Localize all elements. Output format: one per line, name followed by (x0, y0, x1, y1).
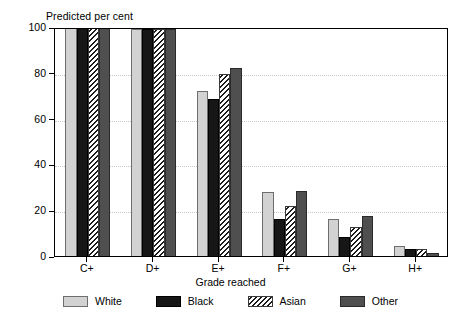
bar-black-cplus (77, 28, 88, 256)
bar-chart: Predicted per cent 020406080100 C+D+E+F+… (0, 0, 461, 328)
bar-groups (55, 29, 447, 256)
legend-item-asian: Asian (248, 295, 306, 307)
bar-asian-cplus (88, 28, 99, 256)
bar-white-dplus (131, 29, 142, 256)
legend-item-white: White (63, 295, 122, 307)
bar-group-hplus (394, 29, 439, 256)
bar-asian-dplus (153, 29, 164, 256)
bar-other-cplus (99, 28, 110, 256)
x-tick-label-eplus: E+ (212, 262, 225, 274)
bar-white-hplus (394, 246, 405, 256)
bar-black-hplus (405, 249, 416, 256)
bar-other-eplus (230, 68, 241, 256)
bar-group-fplus (262, 29, 307, 256)
bar-group-eplus (197, 29, 242, 256)
bar-group-cplus (65, 29, 110, 256)
y-tick-label: 40 (34, 158, 46, 170)
y-axis-title: Predicted per cent (46, 10, 133, 22)
y-tick-label: 100 (28, 21, 46, 33)
bar-asian-hplus (416, 249, 427, 256)
x-axis-title: Grade reached (0, 276, 461, 288)
legend-label-other: Other (372, 295, 398, 307)
y-tick-label: 0 (40, 250, 46, 262)
bar-other-gplus (362, 216, 373, 256)
legend-item-black: Black (156, 295, 214, 307)
x-tick-label-gplus: G+ (342, 262, 356, 274)
legend-label-white: White (95, 295, 122, 307)
bar-white-cplus (65, 28, 76, 256)
y-tick-label: 80 (34, 67, 46, 79)
y-tick-label: 20 (34, 204, 46, 216)
x-tick-label-cplus: C+ (80, 262, 94, 274)
legend-label-asian: Asian (280, 295, 306, 307)
y-tick-label: 60 (34, 113, 46, 125)
bar-other-hplus (427, 253, 438, 256)
x-tick-label-fplus: F+ (278, 262, 291, 274)
legend-swatch-black-icon (156, 296, 181, 307)
plot-area (54, 28, 448, 257)
bar-asian-eplus (219, 74, 230, 256)
bar-white-eplus (197, 91, 208, 256)
bar-group-gplus (328, 29, 373, 256)
x-tick-label-dplus: D+ (146, 262, 160, 274)
legend-label-black: Black (188, 295, 214, 307)
bar-white-gplus (328, 219, 339, 256)
bar-black-dplus (142, 29, 153, 256)
x-tick-label-hplus: H+ (408, 262, 422, 274)
legend-item-other: Other (340, 295, 398, 307)
bar-other-dplus (165, 29, 176, 256)
bar-white-fplus (262, 192, 273, 256)
legend-swatch-asian-icon (248, 296, 273, 307)
bar-asian-gplus (350, 227, 361, 256)
bar-group-dplus (131, 29, 176, 256)
bar-black-eplus (208, 99, 219, 256)
chart-legend: WhiteBlackAsianOther (0, 295, 461, 307)
legend-swatch-white-icon (63, 296, 88, 307)
bar-other-fplus (296, 191, 307, 256)
bar-black-gplus (339, 237, 350, 256)
legend-swatch-other-icon (340, 296, 365, 307)
bar-black-fplus (274, 219, 285, 256)
bar-asian-fplus (285, 206, 296, 256)
